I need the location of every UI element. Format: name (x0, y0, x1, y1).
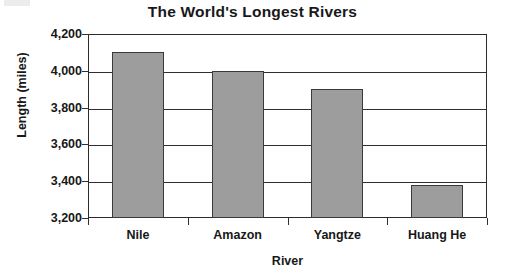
bar-amazon (212, 71, 264, 218)
y-axis-tick-mark (82, 181, 89, 182)
bar-slot (188, 34, 288, 218)
y-axis-tick-label: 3,400 (51, 174, 82, 188)
x-axis-tick-label: Nile (88, 228, 188, 242)
y-axis-tick-mark (82, 71, 89, 72)
bars-layer (88, 34, 487, 218)
x-axis-tick-label: Huang He (387, 228, 487, 242)
y-axis-tick-label: 3,800 (51, 101, 82, 115)
bar-yangtze (311, 89, 363, 218)
chart-title: The World's Longest Rivers (0, 3, 505, 21)
x-axis-tick-labels: NileAmazonYangtzeHuang He (88, 228, 487, 242)
y-axis-tick-mark (82, 218, 89, 219)
x-axis-tick-mark (487, 218, 488, 225)
x-axis-tick-mark (188, 218, 189, 225)
x-axis-tick-marks (88, 218, 487, 226)
bar-chart-figure: The World's Longest Rivers Length (miles… (0, 0, 505, 278)
x-axis-tick-mark (88, 218, 89, 225)
x-axis-tick-label: Yangtze (288, 228, 388, 242)
y-axis-tick-label: 4,200 (51, 27, 82, 41)
y-axis-tick-label: 3,200 (51, 211, 82, 225)
bar-slot (288, 34, 388, 218)
x-axis-tick-mark (387, 218, 388, 225)
bar-huang-he (411, 185, 463, 218)
y-axis-tick-label: 3,600 (51, 137, 82, 151)
y-axis-tick-mark (82, 34, 89, 35)
y-axis-tick-labels: 4,2004,0003,8003,6003,4003,200 (24, 34, 82, 218)
x-axis-title: River (88, 254, 487, 268)
x-axis-tick-mark (288, 218, 289, 225)
y-axis-tick-mark (82, 144, 89, 145)
y-axis-tick-mark (82, 108, 89, 109)
bar-slot (387, 34, 487, 218)
bar-slot (88, 34, 188, 218)
x-axis-tick-label: Amazon (188, 228, 288, 242)
y-axis-tick-label: 4,000 (51, 64, 82, 78)
bar-nile (112, 52, 164, 218)
